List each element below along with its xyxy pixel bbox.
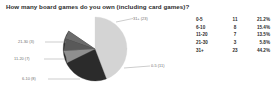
legend-count: 23	[227, 48, 243, 56]
legend-percent: 13.5%	[243, 32, 270, 40]
legend-bucket: 31+	[196, 48, 227, 56]
page-title: How many board games do you own (includi…	[6, 3, 189, 10]
legend-table: 0-5 11 21.2% 6-10 8 15.4% 11-20 7 13.5% …	[196, 17, 270, 55]
table-row: 31+ 23 44.2%	[196, 48, 270, 56]
legend-count: 8	[227, 25, 243, 33]
pie-chart-svg	[0, 13, 190, 85]
legend-count: 11	[227, 17, 243, 25]
legend-percent: 44.2%	[243, 48, 270, 56]
legend-bucket: 0-5	[196, 17, 227, 25]
table-row: 11-20 7 13.5%	[196, 32, 270, 40]
table-row: 6-10 8 15.4%	[196, 25, 270, 33]
leader-line-31plus	[116, 19, 133, 23]
leader-line-0-5	[124, 66, 150, 68]
pie-label-11-20: 11-20 (7)	[14, 56, 30, 61]
legend-percent: 5.8%	[243, 40, 270, 48]
pie-chart: 31+ (23) 0-5 (11) 6-10 (8) 11-20 (7) 21-…	[0, 13, 190, 85]
legend-bucket: 21-30	[196, 40, 227, 48]
pie-label-21-30: 21-30 (3)	[18, 39, 34, 44]
legend-count: 7	[227, 32, 243, 40]
table-row: 0-5 11 21.2%	[196, 17, 270, 25]
legend-count: 3	[227, 40, 243, 48]
survey-result-chart: How many board games do you own (includi…	[0, 0, 272, 85]
pie-label-31plus: 31+ (23)	[133, 16, 148, 21]
legend-bucket: 11-20	[196, 32, 227, 40]
legend-percent: 15.4%	[243, 25, 270, 33]
pie-label-0-5: 0-5 (11)	[151, 63, 165, 68]
legend-bucket: 6-10	[196, 25, 227, 33]
legend-percent: 21.2%	[243, 17, 270, 25]
pie-label-6-10: 6-10 (8)	[22, 76, 36, 81]
table-row: 21-30 3 5.8%	[196, 40, 270, 48]
